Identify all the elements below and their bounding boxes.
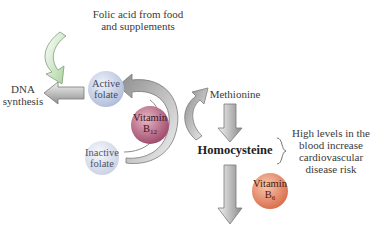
risk-line3: cardiovascular bbox=[290, 151, 372, 163]
folic-acid-line1: Folic acid from food bbox=[78, 8, 198, 20]
folate-homocysteine-diagram: Folic acid from food and supplements DNA… bbox=[0, 0, 376, 233]
dna-arrow bbox=[44, 82, 84, 104]
inactive-folate-line2: folate bbox=[90, 158, 114, 169]
vitamin-b12-node: Vitamin B12 bbox=[131, 106, 169, 144]
green-curved-arrow bbox=[45, 32, 66, 84]
active-folate-line2: folate bbox=[94, 89, 118, 100]
vitamin-b12-line2: B12 bbox=[143, 123, 157, 138]
inactive-folate-line1: Inactive bbox=[85, 147, 119, 158]
homocysteine-label: Homocysteine bbox=[190, 144, 280, 156]
methionine-label: Methionine bbox=[205, 88, 265, 100]
vitamin-b6-line2: B6 bbox=[265, 189, 276, 204]
risk-line1: High levels in the bbox=[290, 127, 372, 139]
risk-line4: disease risk bbox=[290, 163, 372, 175]
folic-acid-line2: and supplements bbox=[78, 20, 198, 32]
vitamin-b6-node: Vitamin B6 bbox=[252, 173, 288, 209]
dna-synthesis-label: DNA synthesis bbox=[2, 83, 44, 107]
vitamin-b6-line1: Vitamin bbox=[253, 178, 287, 189]
homocysteine-down-arrow bbox=[218, 165, 242, 224]
folic-acid-label: Folic acid from food and supplements bbox=[78, 8, 198, 32]
diagram-graphics bbox=[0, 0, 376, 233]
methionine-down-arrow bbox=[218, 104, 242, 142]
active-folate-line1: Active bbox=[92, 78, 120, 89]
vitamin-b12-line1: Vitamin bbox=[133, 112, 167, 123]
cardiovascular-risk-label: High levels in the blood increase cardio… bbox=[290, 127, 372, 175]
dna-line1: DNA bbox=[2, 83, 44, 95]
dna-line2: synthesis bbox=[2, 95, 44, 107]
active-folate-node: Active folate bbox=[88, 71, 124, 107]
risk-line2: blood increase bbox=[290, 139, 372, 151]
inactive-folate-node: Inactive folate bbox=[85, 141, 119, 175]
